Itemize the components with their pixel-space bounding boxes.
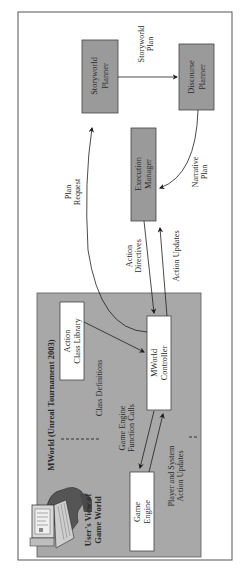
edge-label-action-directives-2: Directives	[134, 239, 143, 273]
user-view-label-2: Game World	[93, 496, 103, 544]
storyworld-planner-node: Storyworld Planner	[82, 40, 118, 113]
storyworld-planner-label-2: Planner	[101, 63, 110, 89]
user-view-label-1: User's View of	[83, 494, 93, 547]
mworld-controller-label-2: Controller	[160, 346, 169, 381]
edge-label-storyworld-plan-2: Plan	[146, 37, 155, 52]
action-class-library-label-2: Class Library	[73, 318, 82, 364]
edge-label-game-engine-calls-1: Game Engine	[118, 405, 127, 450]
architecture-diagram: Storyworld Planner Discourse Planner Exe…	[0, 0, 243, 578]
mworld-controller-label-1: MWorld	[150, 348, 159, 377]
edge-label-storyworld-plan-1: Storyworld	[137, 26, 146, 63]
action-class-library-label-1: Action	[63, 329, 72, 353]
discourse-planner-label-1: Discourse	[187, 60, 196, 94]
discourse-planner-node: Discourse Planner	[179, 44, 214, 110]
game-engine-node: Game Engine	[130, 472, 154, 551]
edge-label-class-definitions: Class Definitions	[95, 360, 104, 417]
edge-label-player-system-updates-1: Player and System	[167, 445, 176, 507]
execution-manager-label-2: Manager	[144, 159, 153, 189]
execution-manager-node: Execution Manager	[131, 128, 156, 221]
game-engine-label-2: Engine	[143, 500, 152, 524]
game-engine-label-1: Game	[133, 502, 142, 522]
action-class-library-node: Action Class Library	[60, 302, 84, 380]
mworld-controller-node: MWorld Controller	[147, 316, 171, 410]
edge-label-player-system-updates-2: Action Updates	[176, 450, 185, 501]
edge-label-plan-request-2: Request	[73, 178, 82, 205]
mworld-region-title: MWorld (Unreal Tournament 2003)	[46, 339, 56, 471]
edge-label-narrative-plan-1: Narrative	[191, 156, 200, 187]
edge-label-action-updates: Action Updates	[172, 230, 181, 281]
edge-label-narrative-plan-2: Plan	[200, 165, 209, 180]
storyworld-planner-label-1: Storyworld	[90, 56, 99, 95]
execution-manager-label-1: Execution	[134, 156, 143, 191]
edge-label-action-directives-1: Action	[125, 245, 134, 267]
edge-label-plan-request-1: Plan	[64, 185, 73, 200]
discourse-planner-label-2: Planner	[198, 64, 207, 90]
edge-label-game-engine-calls-2: Function Calls	[127, 404, 136, 452]
